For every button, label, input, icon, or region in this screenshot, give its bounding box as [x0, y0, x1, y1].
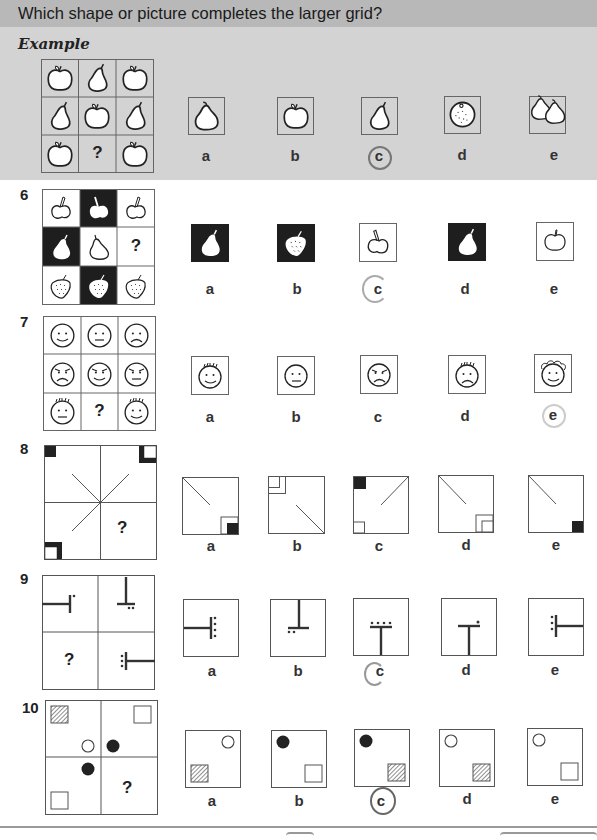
example-label-e: e	[539, 146, 569, 163]
question-9-label-e: e	[540, 661, 570, 678]
question-8-option-d[interactable]	[438, 475, 494, 533]
missing-marker: ?	[122, 778, 132, 798]
question-8-label-e: e	[541, 536, 571, 553]
footer-tab	[286, 832, 314, 840]
question-6-option-e[interactable]	[536, 222, 574, 261]
question-7-option-e[interactable]	[534, 354, 572, 393]
question-6-option-b[interactable]	[277, 224, 315, 262]
example-option-d[interactable]	[444, 96, 481, 134]
question-7-option-a[interactable]	[191, 356, 229, 395]
question-7-label-e: e	[538, 406, 568, 423]
question-number-8: 8	[20, 440, 28, 457]
question-8-label-c: c	[364, 537, 394, 554]
question-7-grid: ?	[43, 316, 156, 431]
question-7-label-c: c	[363, 408, 393, 425]
question-10-option-a[interactable]	[185, 730, 241, 788]
example-label-c: c	[364, 147, 394, 164]
question-6-grid: ?	[42, 189, 155, 305]
question-8-option-a[interactable]	[182, 477, 239, 535]
question-9-label-d: d	[451, 661, 481, 678]
example-option-c[interactable]	[361, 97, 398, 135]
example-grid: ?	[41, 59, 154, 173]
instruction-title: Which shape or picture completes the lar…	[18, 4, 382, 23]
question-6-label-b: b	[282, 280, 312, 297]
example-label-b: b	[280, 147, 310, 164]
missing-marker: ?	[64, 650, 74, 670]
question-8-label-d: d	[451, 536, 481, 553]
example-option-e[interactable]	[529, 96, 569, 134]
missing-marker: ?	[81, 401, 118, 421]
instruction-header: Which shape or picture completes the lar…	[0, 0, 597, 27]
example-label-d: d	[447, 146, 477, 163]
question-10-label-e: e	[540, 790, 570, 807]
question-number-6: 6	[20, 186, 28, 203]
example-option-b[interactable]	[277, 97, 314, 135]
question-10-option-e[interactable]	[527, 728, 583, 786]
question-6-option-d[interactable]	[448, 223, 486, 261]
question-6-label-c: c	[363, 280, 393, 297]
question-10-option-d[interactable]	[439, 729, 495, 787]
question-7-label-a: a	[195, 408, 225, 425]
question-10-option-b[interactable]	[271, 730, 327, 788]
question-7-option-c[interactable]	[360, 355, 398, 394]
footer-tab	[500, 832, 597, 840]
question-9-option-d[interactable]	[441, 598, 497, 656]
question-9-grid: ?	[42, 575, 155, 690]
question-9-label-a: a	[197, 662, 227, 679]
question-9-option-e[interactable]	[528, 598, 584, 656]
question-9-option-a[interactable]	[183, 599, 239, 657]
question-number-7: 7	[20, 313, 28, 330]
question-10-label-b: b	[284, 792, 314, 809]
question-8-option-e[interactable]	[528, 475, 584, 533]
question-8-grid: ?	[44, 445, 157, 560]
question-8-option-c[interactable]	[353, 476, 409, 534]
question-7-option-b[interactable]	[277, 356, 315, 395]
question-7-label-d: d	[450, 407, 480, 424]
question-10-option-c[interactable]	[354, 729, 410, 787]
question-10-grid: ?	[45, 700, 158, 815]
question-6-option-a[interactable]	[191, 224, 229, 262]
missing-marker: ?	[117, 236, 155, 256]
example-label: Example	[18, 35, 90, 53]
question-10-label-a: a	[197, 792, 227, 809]
question-number-9: 9	[20, 570, 28, 587]
question-6-label-a: a	[195, 280, 225, 297]
question-7-option-d[interactable]	[448, 355, 486, 394]
question-number-10: 10	[22, 699, 39, 716]
question-6-option-c[interactable]	[359, 223, 397, 262]
question-8-option-b[interactable]	[268, 476, 325, 534]
question-9-label-b: b	[283, 662, 313, 679]
missing-marker: ?	[79, 143, 116, 163]
missing-marker: ?	[117, 518, 127, 538]
question-9-label-c: c	[365, 662, 395, 679]
question-9-option-c[interactable]	[353, 598, 409, 656]
example-label-a: a	[191, 147, 221, 164]
question-8-label-b: b	[282, 537, 312, 554]
question-10-label-d: d	[452, 790, 482, 807]
question-6-label-e: e	[539, 280, 569, 297]
question-10-label-c: c	[366, 792, 396, 809]
question-8-label-a: a	[196, 537, 226, 554]
example-option-a[interactable]	[188, 97, 225, 135]
question-9-option-b[interactable]	[270, 599, 326, 657]
page-divider	[0, 826, 597, 828]
question-6-label-d: d	[450, 280, 480, 297]
question-7-label-b: b	[281, 408, 311, 425]
